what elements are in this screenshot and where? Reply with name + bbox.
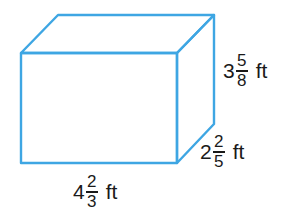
width-denominator: 5 bbox=[214, 153, 223, 171]
front-face bbox=[21, 53, 177, 163]
length-unit: ft bbox=[106, 181, 118, 202]
width-numerator: 2 bbox=[214, 133, 223, 151]
width-label: 2 2 5 ft bbox=[200, 133, 244, 171]
height-denominator: 8 bbox=[237, 72, 246, 90]
top-face bbox=[21, 15, 214, 53]
length-whole: 4 bbox=[73, 181, 85, 202]
length-fraction: 2 3 bbox=[86, 173, 98, 211]
height-numerator: 5 bbox=[237, 52, 246, 70]
length-numerator: 2 bbox=[87, 173, 96, 191]
height-label: 3 5 8 ft bbox=[223, 52, 267, 90]
width-fraction: 2 5 bbox=[213, 133, 225, 171]
height-unit: ft bbox=[256, 60, 268, 81]
height-whole: 3 bbox=[223, 60, 235, 81]
width-unit: ft bbox=[233, 141, 245, 162]
width-whole: 2 bbox=[200, 141, 212, 162]
height-fraction: 5 8 bbox=[236, 52, 248, 90]
rectangular-prism bbox=[0, 0, 302, 224]
length-denominator: 3 bbox=[87, 193, 96, 211]
length-label: 4 2 3 ft bbox=[73, 173, 117, 211]
